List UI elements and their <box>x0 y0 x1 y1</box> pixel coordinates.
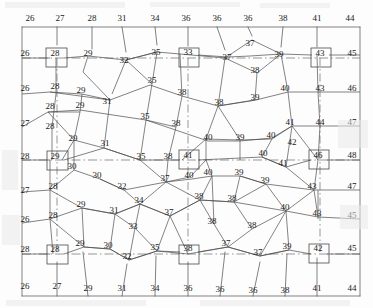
node-label: 39 <box>236 133 245 142</box>
node-label: 39 <box>261 176 270 185</box>
node-label: 28 <box>51 245 60 254</box>
node-label: 35 <box>151 243 160 252</box>
node-label: 36 <box>249 286 258 295</box>
node-label: 29 <box>51 152 60 161</box>
node-label: 43 <box>313 209 322 218</box>
node-label: 37 <box>222 239 231 248</box>
node-label: 26 <box>26 14 35 23</box>
node-label: 44 <box>346 14 355 23</box>
node-label: 28 <box>49 182 58 191</box>
node-label: 48 <box>348 151 357 160</box>
node-label: 26 <box>21 215 30 224</box>
node-label: 45 <box>348 244 357 253</box>
node-label: 35 <box>148 76 157 85</box>
node-label: 35 <box>152 48 161 57</box>
node-label: 38 <box>164 152 173 161</box>
scan-artifact <box>2 150 18 190</box>
node-label: 40 <box>204 133 213 142</box>
node-label: 39 <box>251 93 260 102</box>
node-label: 38 <box>178 88 187 97</box>
node-label: 38 <box>251 66 260 75</box>
node-label: 38 <box>228 194 237 203</box>
node-label: 31 <box>118 284 127 293</box>
node-label: 38 <box>279 14 288 23</box>
node-label: 28 <box>51 49 60 58</box>
node-label: 28 <box>46 122 55 131</box>
node-label: 38 <box>184 244 193 253</box>
node-label: 34 <box>151 14 160 23</box>
node-label: 38 <box>195 192 204 201</box>
node-label: 36 <box>216 285 225 294</box>
node-label: 40 <box>185 171 194 180</box>
node-label: 46 <box>314 151 323 160</box>
node-label: 43 <box>316 84 325 93</box>
node-label: 35 <box>141 112 150 121</box>
node-label: 43 <box>308 182 317 191</box>
node-label: 39 <box>283 242 292 251</box>
node-label: 40 <box>281 203 290 212</box>
node-label: 41 <box>313 284 322 293</box>
node-label: 42 <box>314 244 323 253</box>
node-label: 31 <box>118 14 127 23</box>
node-label: 40 <box>204 168 213 177</box>
node-label: 41 <box>313 14 322 23</box>
node-label: 38 <box>215 98 224 107</box>
node-label: 47 <box>348 182 357 191</box>
scan-artifact <box>150 2 240 7</box>
node-label: 29 <box>76 101 85 110</box>
node-label: 43 <box>316 49 325 58</box>
scan-artifact <box>6 300 146 306</box>
node-label: 28 <box>88 14 97 23</box>
node-label: 39 <box>235 168 244 177</box>
node-label: 27 <box>21 119 30 128</box>
node-label: 28 <box>51 82 60 91</box>
scan-artifact <box>340 205 368 229</box>
node-label: 31 <box>103 97 112 106</box>
node-label: 46 <box>348 84 357 93</box>
node-label: 40 <box>267 131 276 140</box>
node-label: 38 <box>172 119 181 128</box>
node-label: 26 <box>21 84 30 93</box>
node-label: 29 <box>76 239 85 248</box>
node-label: 28 <box>21 152 30 161</box>
node-label: 30 <box>68 162 77 171</box>
node-label: 36 <box>184 284 193 293</box>
node-label: 41 <box>184 151 193 160</box>
node-label: 27 <box>53 282 62 291</box>
node-label: 29 <box>84 49 93 58</box>
node-label: 30 <box>104 241 113 250</box>
node-label: 41 <box>279 159 288 168</box>
node-label: 33 <box>129 222 138 231</box>
node-label: 36 <box>182 14 191 23</box>
node-label: 45 <box>348 49 357 58</box>
node-label: 32 <box>118 182 127 191</box>
node-label: 27 <box>21 186 30 195</box>
node-label: 40 <box>259 149 268 158</box>
scan-artifact <box>260 3 330 8</box>
node-label: 38 <box>208 217 217 226</box>
node-label: 26 <box>21 282 30 291</box>
node-label: 39 <box>275 50 284 59</box>
node-label: 35 <box>137 152 146 161</box>
node-label: 28 <box>49 211 58 220</box>
node-label: 31 <box>101 139 110 148</box>
node-label: 37 <box>254 248 263 257</box>
node-label: 36 <box>213 14 222 23</box>
node-label: 31 <box>110 206 119 215</box>
node-label: 33 <box>184 48 193 57</box>
node-label: 41 <box>286 118 295 127</box>
node-label: 30 <box>93 171 102 180</box>
node-label: 44 <box>348 284 357 293</box>
node-label: 29 <box>69 134 78 143</box>
node-label: 38 <box>248 221 257 230</box>
scan-artifact <box>2 215 20 245</box>
scan-artifact <box>5 2 125 8</box>
node-label: 38 <box>281 286 290 295</box>
scan-artifact <box>338 120 368 148</box>
node-label: 37 <box>165 208 174 217</box>
node-label: 28 <box>46 102 55 111</box>
node-label: 37 <box>223 53 232 62</box>
node-label: 29 <box>77 200 86 209</box>
node-label: 32 <box>123 252 132 261</box>
node-label: 40 <box>281 84 290 93</box>
